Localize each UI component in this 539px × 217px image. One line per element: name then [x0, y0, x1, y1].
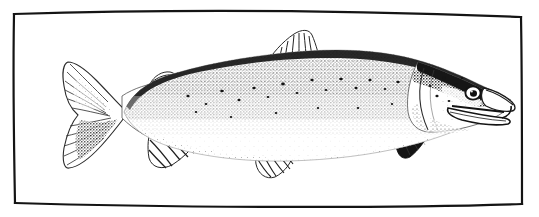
figure-root: facing right Atlantic salmon (spawning m… — [0, 0, 539, 217]
frame-right-edge — [521, 17, 522, 204]
salmon-engraving-figure — [0, 0, 539, 217]
eye — [465, 86, 480, 99]
